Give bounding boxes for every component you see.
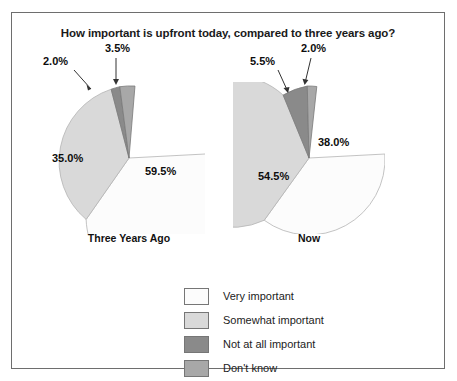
pie-caption-now: Now <box>209 232 409 244</box>
legend-swatch-dont-know <box>184 360 209 377</box>
legend-swatch-somewhat-important <box>184 312 209 329</box>
chart-frame: How important is upfront today, compared… <box>11 12 445 369</box>
legend-swatch-very-important <box>184 288 209 305</box>
legend-item-not-at-all-important[interactable]: Not at all important <box>184 332 324 356</box>
legend-item-somewhat-important[interactable]: Somewhat important <box>184 308 324 332</box>
legend-swatch-not-at-all-important <box>184 336 209 353</box>
legend-label-dont-know: Don't know <box>223 362 277 374</box>
legend-label-very-important: Very important <box>223 290 294 302</box>
legend-label-somewhat-important: Somewhat important <box>223 314 324 326</box>
chart-legend: Very important Somewhat important Not at… <box>184 284 324 380</box>
legend-item-very-important[interactable]: Very important <box>184 284 324 308</box>
legend-label-not-at-all-important: Not at all important <box>223 338 315 350</box>
legend-item-dont-know[interactable]: Don't know <box>184 356 324 380</box>
